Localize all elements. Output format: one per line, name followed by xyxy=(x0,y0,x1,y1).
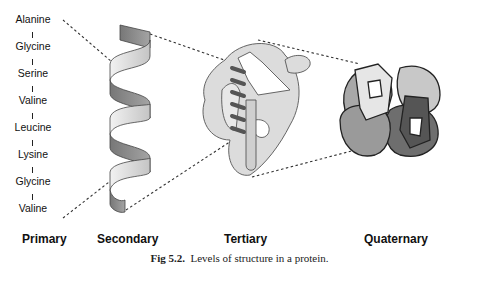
figure-caption: Fig 5.2. Levels of structure in a protei… xyxy=(0,252,479,264)
peptide-bond xyxy=(32,194,33,200)
amino-acid-label: Serine xyxy=(3,67,63,79)
amino-acid-label: Lysine xyxy=(3,148,63,160)
level-label-primary: Primary xyxy=(22,232,67,246)
caption-text: Levels of structure in a protein. xyxy=(190,252,328,264)
amino-acid-label: Valine xyxy=(3,202,63,214)
peptide-bond xyxy=(32,113,33,119)
level-label-secondary: Secondary xyxy=(97,232,158,246)
peptide-bond xyxy=(32,86,33,92)
caption-label: Fig 5.2. xyxy=(150,252,185,264)
amino-acid-label: Valine xyxy=(3,94,63,106)
amino-acid-label: Leucine xyxy=(3,121,63,133)
amino-acid-label: Alanine xyxy=(3,13,63,25)
level-label-tertiary: Tertiary xyxy=(224,232,267,246)
peptide-bond xyxy=(32,140,33,146)
peptide-bond xyxy=(32,59,33,65)
tertiary-fold xyxy=(203,44,310,176)
peptide-bond xyxy=(32,167,33,173)
level-label-quaternary: Quaternary xyxy=(364,232,428,246)
amino-acid-label: Glycine xyxy=(3,40,63,52)
peptide-bond xyxy=(32,32,33,38)
alpha-helix-ribbon xyxy=(108,25,150,212)
amino-acid-label: Glycine xyxy=(3,175,63,187)
quaternary-assembly xyxy=(340,64,440,156)
